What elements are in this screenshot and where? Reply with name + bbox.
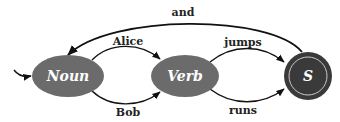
start-arrow xyxy=(14,70,31,76)
edge-label-runs: runs xyxy=(229,104,257,117)
edge-alice xyxy=(92,46,160,60)
state-label-verb: Verb xyxy=(167,68,203,84)
edge-jumps xyxy=(210,49,284,63)
fsa-diagram: and Alice Bob jumps runs Noun Verb S xyxy=(0,0,340,122)
edge-label-and: and xyxy=(172,6,195,19)
edge-runs xyxy=(210,89,284,102)
state-label-s: S xyxy=(303,68,313,84)
edge-label-jumps: jumps xyxy=(223,36,262,49)
edge-label-bob: Bob xyxy=(116,106,141,119)
edge-bob xyxy=(92,91,160,104)
state-verb: Verb xyxy=(151,55,219,97)
edge-and xyxy=(68,24,302,55)
state-noun: Noun xyxy=(32,55,104,97)
state-label-noun: Noun xyxy=(46,68,90,84)
edge-label-alice: Alice xyxy=(112,35,144,48)
state-s-final: S xyxy=(284,52,332,100)
